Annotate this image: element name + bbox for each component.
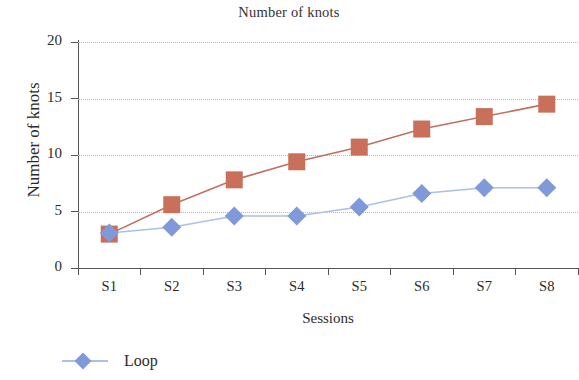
square-marker-icon [351,139,368,156]
series-layer [78,42,578,268]
y-axis-tick-label: 10 [18,145,62,162]
diamond-marker-icon [75,352,92,369]
x-axis-tick [515,268,516,275]
square-marker-icon [288,153,305,170]
x-axis-tick [390,268,391,275]
x-axis-tick-label: S3 [203,278,265,295]
legend-label-loop: Loop [124,352,158,370]
x-axis-tick-label: S8 [516,278,578,295]
x-axis-tick-label: S1 [78,278,140,295]
x-axis-title: Sessions [78,310,578,327]
legend-line-loop [62,360,108,362]
y-axis-tick-label: 15 [18,89,62,106]
y-axis-tick [71,211,78,212]
diamond-marker-icon [162,218,181,237]
x-axis-tick [453,268,454,275]
square-marker-icon [163,196,180,213]
x-axis-tick [78,268,79,275]
square-marker-icon [413,121,430,138]
x-axis-tick-label: S7 [453,278,515,295]
x-axis-tick-label: S2 [141,278,203,295]
y-axis-title: Number of knots [24,60,44,220]
plot-area [78,42,578,268]
square-marker-icon [476,108,493,125]
y-axis-tick-label: 5 [18,202,62,219]
diamond-marker-icon [287,207,306,226]
square-marker-icon [538,96,555,113]
y-axis-tick [71,42,78,43]
square-marker-icon [226,171,243,188]
x-axis-tick-label: S5 [328,278,390,295]
y-axis-tick-label: 20 [18,32,62,49]
y-axis-tick-label: 0 [18,258,62,275]
diamond-marker-icon [475,178,494,197]
x-axis-tick [265,268,266,275]
chart-legend: Loop [62,352,158,370]
y-axis-tick [71,155,78,156]
x-axis-tick-label: S6 [391,278,453,295]
x-axis-tick-label: S4 [266,278,328,295]
diamond-marker-icon [537,178,556,197]
diamond-marker-icon [350,197,369,216]
x-axis-tick [203,268,204,275]
diamond-marker-icon [412,184,431,203]
x-axis-tick [140,268,141,275]
x-axis-tick [328,268,329,275]
y-axis-tick [71,98,78,99]
chart-title: Number of knots [0,4,578,21]
diamond-marker-icon [225,207,244,226]
